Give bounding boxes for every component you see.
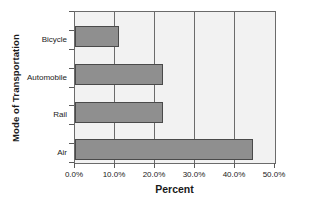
y-axis-tick-labels: Bicycle Automobile Rail Air: [14, 11, 71, 162]
y-tick-label-rail: Rail: [14, 110, 71, 120]
bar-bicycle[interactable]: [75, 26, 119, 47]
x-tick-mark: [274, 163, 275, 168]
x-tick-label-50: 50.0%: [251, 169, 297, 180]
x-tick-mark: [114, 163, 115, 168]
x-axis-tick-labels: 0.0% 10.0% 20.0% 30.0% 40.0% 50.0%: [0, 169, 318, 181]
y-tick-label-automobile: Automobile: [14, 73, 71, 83]
bar-air[interactable]: [75, 139, 253, 160]
y-tick-label-bicycle: Bicycle: [14, 35, 71, 45]
plot-area: [74, 11, 276, 164]
x-axis-title: Percent: [74, 182, 275, 196]
x-tick-mark: [194, 163, 195, 168]
x-tick-mark: [234, 163, 235, 168]
bar-chart-figure: Mode of Transportation Bicycle Automobil…: [0, 0, 318, 202]
x-tick-mark: [154, 163, 155, 168]
y-tick-label-air: Air: [14, 148, 71, 158]
bar-automobile[interactable]: [75, 64, 163, 85]
x-tick-mark: [74, 163, 75, 168]
bar-rail[interactable]: [75, 102, 163, 123]
